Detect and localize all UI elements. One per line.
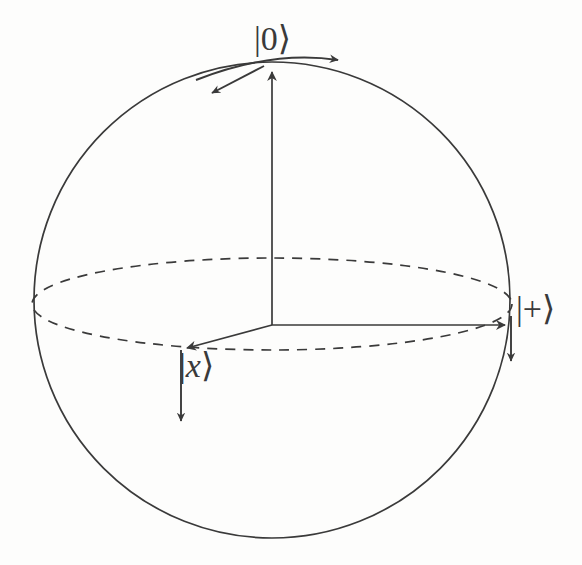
axis-label-plus: |+⟩ (516, 292, 555, 326)
axis-label-x-variable: x (186, 347, 201, 384)
axis-label-x: |x⟩ (179, 349, 214, 383)
axis-label-x-ket: ⟩ (201, 347, 214, 384)
bloch-sphere-canvas (0, 0, 582, 565)
axis-label-x-bar: | (179, 347, 186, 384)
axis-label-zero: |0⟩ (254, 22, 291, 56)
x-axis-line (187, 325, 272, 348)
north-pole-tangent-left-arrow (212, 66, 264, 93)
bloch-sphere-figure: |0⟩ |+⟩ |x⟩ (0, 0, 582, 565)
